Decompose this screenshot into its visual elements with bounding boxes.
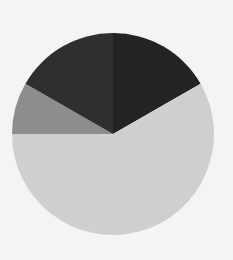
pie-chart xyxy=(0,0,233,260)
pie-slices xyxy=(12,33,214,235)
